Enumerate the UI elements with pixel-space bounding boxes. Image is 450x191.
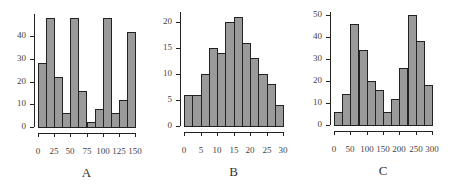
x-tick — [383, 131, 384, 135]
x-tick-label: 300 — [417, 144, 447, 154]
y-tick — [30, 36, 34, 37]
x-tick — [217, 132, 218, 136]
x-tick — [54, 133, 55, 137]
panel-label: C — [368, 163, 398, 179]
y-tick — [176, 22, 180, 23]
y-tick-label: 30 — [4, 53, 26, 63]
y-tick-label: 0 — [300, 119, 322, 129]
y-tick-label: 20 — [300, 75, 322, 85]
x-tick — [234, 132, 235, 136]
y-tick-label: 10 — [4, 98, 26, 108]
y-tick — [176, 74, 180, 75]
y-tick-label: 15 — [150, 42, 172, 52]
y-tick-label: 30 — [300, 53, 322, 63]
y-tick-label: 40 — [4, 30, 26, 40]
x-tick — [250, 132, 251, 136]
x-tick — [135, 133, 136, 137]
y-tick — [326, 37, 330, 38]
y-tick — [326, 125, 330, 126]
y-tick — [176, 126, 180, 127]
y-tick-label: 40 — [300, 31, 322, 41]
y-tick-label: 10 — [300, 97, 322, 107]
y-axis-line — [180, 12, 181, 126]
y-tick — [30, 127, 34, 128]
x-tick — [334, 131, 335, 135]
y-tick — [326, 15, 330, 16]
x-tick — [416, 131, 417, 135]
histogram-bar — [103, 18, 112, 128]
y-tick — [176, 100, 180, 101]
x-tick — [350, 131, 351, 135]
x-tick-label: 30 — [268, 145, 298, 155]
x-tick — [184, 132, 185, 136]
x-tick — [38, 133, 39, 137]
x-tick — [399, 131, 400, 135]
x-tick — [283, 132, 284, 136]
y-tick — [326, 103, 330, 104]
y-axis-line — [330, 12, 331, 125]
y-tick — [30, 104, 34, 105]
x-tick-label: 150 — [120, 146, 150, 156]
histogram-bar — [275, 105, 284, 127]
x-tick — [70, 133, 71, 137]
histogram-bar — [127, 32, 136, 128]
y-tick-label: 20 — [4, 76, 26, 86]
x-tick — [367, 131, 368, 135]
panel-label: A — [72, 165, 102, 181]
y-tick-label: 20 — [150, 16, 172, 26]
y-tick — [30, 59, 34, 60]
y-tick — [30, 82, 34, 83]
histogram-bar — [424, 85, 433, 126]
x-tick — [103, 133, 104, 137]
y-tick-label: 50 — [300, 9, 322, 19]
x-tick — [432, 131, 433, 135]
x-tick — [267, 132, 268, 136]
y-tick-label: 10 — [150, 68, 172, 78]
y-tick-label: 5 — [150, 94, 172, 104]
x-tick — [119, 133, 120, 137]
x-tick — [201, 132, 202, 136]
y-tick-label: 0 — [150, 120, 172, 130]
y-axis-line — [34, 14, 35, 127]
y-tick — [326, 59, 330, 60]
y-tick — [326, 81, 330, 82]
x-tick — [87, 133, 88, 137]
panel-label: B — [219, 164, 249, 180]
y-tick-label: 0 — [4, 121, 26, 131]
y-tick — [176, 48, 180, 49]
